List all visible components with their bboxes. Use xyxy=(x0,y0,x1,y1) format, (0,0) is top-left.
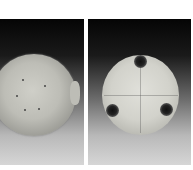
photo-panel-top-view xyxy=(0,19,84,165)
photo-panel-bottom-view xyxy=(88,19,191,165)
glaze-spot xyxy=(16,95,18,97)
glaze-spot xyxy=(44,85,46,87)
glaze-spot xyxy=(38,108,40,110)
crackle-line xyxy=(140,59,141,133)
bowl-interior xyxy=(0,54,76,136)
foot-right xyxy=(160,103,173,116)
foot-left xyxy=(106,104,119,117)
glaze-spot xyxy=(22,79,24,81)
glaze-spot xyxy=(24,109,26,111)
crackle-line xyxy=(104,95,178,96)
bowl-lug xyxy=(70,81,80,105)
foot-top xyxy=(134,55,147,68)
